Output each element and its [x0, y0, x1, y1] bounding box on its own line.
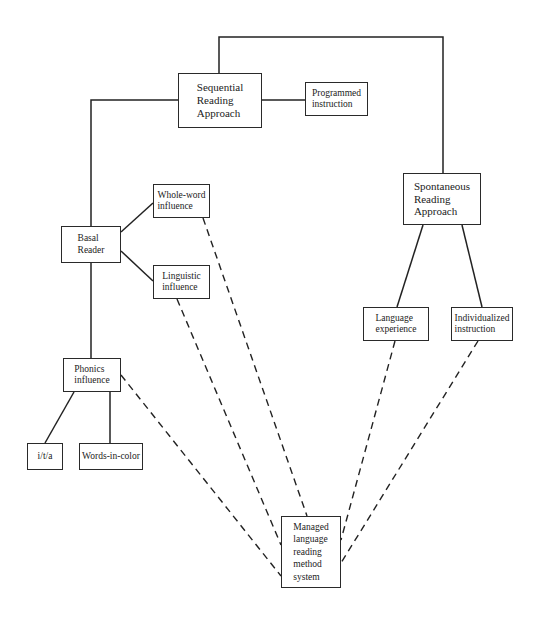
node-label: Language experience [375, 313, 416, 336]
node-label: Individualized instruction [455, 313, 510, 336]
edge-basal-whole-word [121, 203, 153, 232]
node-phonics-influence: Phonics influence [63, 358, 121, 392]
node-whole-word-influence: Whole-word influence [153, 184, 210, 218]
edge-phonics-ita [45, 392, 74, 443]
node-label: Sequential Reading Approach [197, 81, 243, 120]
node-label: i/t/a [38, 451, 53, 462]
node-words-in-color: Words-in-color [79, 443, 143, 470]
node-language-experience: Language experience [363, 307, 429, 341]
node-label: Phonics influence [74, 364, 109, 387]
node-label: Programmed instruction [312, 88, 361, 111]
node-programmed-instruction: Programmed instruction [305, 82, 368, 116]
node-spontaneous-reading-approach: Spontaneous Reading Approach [403, 173, 481, 225]
node-basal-reader: Basal Reader [61, 226, 121, 263]
node-linguistic-influence: Linguistic influence [153, 265, 210, 299]
node-managed-language-reading-method-system: Managed language reading method system [281, 516, 341, 588]
node-label: Basal Reader [78, 233, 105, 256]
node-label: Whole-word influence [157, 190, 205, 213]
node-label: Linguistic influence [162, 271, 201, 294]
edge-basal-linguistic [121, 251, 153, 281]
node-label: Spontaneous Reading Approach [414, 180, 470, 219]
node-label: Managed language reading method system [293, 521, 328, 583]
edge-phonics-managed [121, 375, 281, 576]
edge-spontaneous-individualized [462, 225, 482, 307]
node-label: Words-in-color [82, 451, 140, 462]
edge-whole-word-managed [203, 218, 307, 516]
node-sequential-reading-approach: Sequential Reading Approach [178, 73, 262, 128]
node-ita: i/t/a [27, 443, 63, 470]
edge-linguistic-managed [177, 299, 281, 545]
node-individualized-instruction: Individualized instruction [451, 307, 513, 341]
edge-language-experience-managed [341, 341, 395, 540]
edge-spontaneous-language-experience [397, 225, 423, 307]
edge-individualized-managed [341, 341, 478, 563]
